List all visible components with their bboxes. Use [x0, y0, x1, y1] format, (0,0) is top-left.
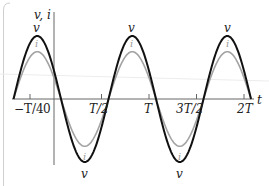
tick-label-minus-quarter-T: −T/4: [14, 102, 44, 116]
i-label-peak-3: i: [226, 38, 229, 49]
voltage-current-chart: −T/4 0 T/2 T 3T/2 2T v, i t v i v i v i …: [0, 0, 269, 186]
v-label-peak-2: v: [128, 21, 135, 35]
tick-label-three-half-T: 3T/2: [176, 102, 203, 116]
tick-label-2T: 2T: [236, 102, 254, 116]
i-label-trough-2: i: [178, 151, 181, 162]
v-label-peak-3: v: [224, 21, 231, 35]
x-ticks: [30, 94, 244, 99]
faint-line: [0, 74, 269, 81]
v-label-trough-1: v: [81, 167, 88, 181]
frame-border: [4, 3, 11, 186]
y-axis-label: v, i: [34, 8, 51, 22]
v-label-peak-1: v: [33, 21, 40, 35]
v-label-trough-2: v: [176, 167, 183, 181]
tick-label-half-T: T/2: [89, 102, 109, 116]
tick-label-T: T: [144, 102, 153, 116]
x-axis-label: t: [257, 93, 262, 107]
tick-label-zero: 0: [43, 102, 51, 116]
i-label-peak-1: i: [35, 38, 38, 49]
i-label-trough-1: i: [83, 151, 86, 162]
i-label-peak-2: i: [130, 38, 133, 49]
